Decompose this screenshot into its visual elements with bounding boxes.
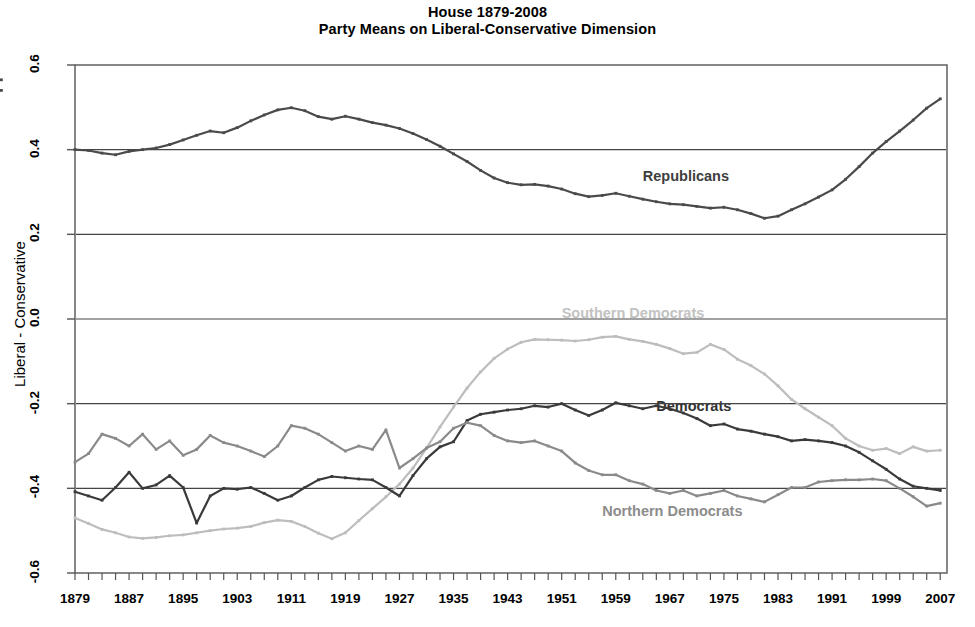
series-point: [466, 421, 469, 424]
series-point: [128, 150, 131, 153]
series-point: [209, 130, 212, 133]
series-point: [222, 131, 225, 134]
series-point: [939, 97, 942, 100]
series-point: [777, 384, 780, 387]
series-point: [925, 505, 928, 508]
chart-container: House 1879-2008 Party Means on Liberal-C…: [0, 0, 975, 627]
series-point: [682, 352, 685, 355]
series-point: [317, 433, 320, 436]
series-point: [587, 469, 590, 472]
series-point: [493, 177, 496, 180]
series-point: [939, 449, 942, 452]
series-point: [398, 467, 401, 470]
series-point: [817, 481, 820, 484]
series-point: [452, 153, 455, 156]
series-point: [912, 495, 915, 498]
series-point: [276, 445, 279, 448]
series-point: [249, 450, 252, 453]
series-point: [925, 107, 928, 110]
series-point: [750, 430, 753, 433]
series-point: [87, 452, 90, 455]
series-point: [533, 338, 536, 341]
series-point: [290, 424, 293, 427]
series-point: [479, 413, 482, 416]
series-point: [520, 407, 523, 410]
series-point: [249, 525, 252, 528]
series-point: [0, 78, 3, 81]
series-point: [628, 404, 631, 407]
series-point: [425, 447, 428, 450]
series-point: [614, 401, 617, 404]
series-point: [628, 338, 631, 341]
series-point: [844, 445, 847, 448]
series-point: [858, 165, 861, 168]
series-point: [750, 498, 753, 501]
series-point: [87, 495, 90, 498]
series-point: [506, 409, 509, 412]
series-point: [479, 169, 482, 172]
series-point: [587, 195, 590, 198]
series-point: [155, 448, 158, 451]
series-point: [317, 532, 320, 535]
series-point: [723, 423, 726, 426]
series-point: [303, 427, 306, 430]
series-line-democrats: [75, 403, 940, 523]
series-point: [939, 489, 942, 492]
series-point: [358, 478, 361, 481]
series-point: [195, 522, 198, 525]
series-point: [925, 487, 928, 490]
series-point: [641, 483, 644, 486]
series-point: [655, 200, 658, 203]
series-point: [439, 426, 442, 429]
series-point: [763, 500, 766, 503]
series-point: [709, 424, 712, 427]
series-point: [358, 519, 361, 522]
series-point: [371, 121, 374, 124]
series-point: [114, 437, 117, 440]
series-point: [222, 487, 225, 490]
series-point: [736, 428, 739, 431]
series-point: [452, 427, 455, 430]
series-point: [276, 499, 279, 502]
series-point: [371, 507, 374, 510]
series-point: [628, 479, 631, 482]
series-point: [128, 536, 131, 539]
series-point: [222, 528, 225, 531]
series-point: [763, 433, 766, 436]
series-point: [290, 495, 293, 498]
series-point: [493, 357, 496, 360]
series-point: [141, 487, 144, 490]
series-point: [155, 536, 158, 539]
series-point: [777, 215, 780, 218]
series-point: [804, 407, 807, 410]
series-point: [668, 347, 671, 350]
series-point: [290, 106, 293, 109]
series-point: [655, 489, 658, 492]
series-point: [614, 335, 617, 338]
series-point: [236, 488, 239, 491]
series-point: [547, 445, 550, 448]
series-point: [249, 119, 252, 122]
series-point: [682, 412, 685, 415]
series-point: [763, 373, 766, 376]
series-point: [101, 499, 104, 502]
series-point: [493, 411, 496, 414]
plot-area: [0, 0, 975, 627]
series-point: [912, 485, 915, 488]
series-point: [547, 185, 550, 188]
series-point: [0, 89, 3, 92]
series-point: [709, 343, 712, 346]
series-point: [303, 109, 306, 112]
series-point: [141, 537, 144, 540]
series-point: [885, 479, 888, 482]
series-point: [425, 457, 428, 460]
series-point: [439, 440, 442, 443]
series-point: [236, 126, 239, 129]
series-point: [858, 451, 861, 454]
series-point: [412, 467, 415, 470]
series-point: [601, 409, 604, 412]
series-point: [898, 130, 901, 133]
series-point: [263, 492, 266, 495]
series-point: [898, 478, 901, 481]
series-point: [479, 371, 482, 374]
